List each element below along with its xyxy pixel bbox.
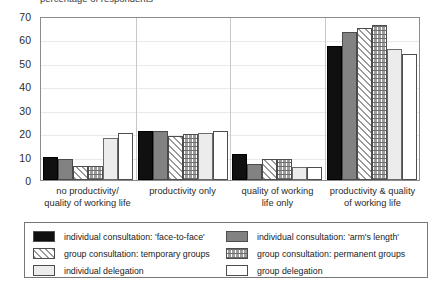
- legend-item: individual consultation: 'arm's length': [226, 231, 419, 242]
- legend-swatch-icon: [33, 265, 55, 276]
- bar: [357, 28, 372, 180]
- bar: [183, 134, 198, 180]
- bar: [342, 32, 357, 180]
- x-axis-label: productivity & quality of working life: [325, 186, 420, 209]
- group-separator: [230, 18, 231, 180]
- y-tick-label: 30: [19, 105, 31, 117]
- x-axis-label: no productivity/ quality of working life: [40, 186, 135, 209]
- legend-item: group consultation: temporary groups: [33, 248, 226, 259]
- group-separator: [325, 18, 326, 180]
- bar: [43, 157, 58, 180]
- bar: [118, 133, 133, 180]
- bar-group: [230, 18, 325, 180]
- x-axis-label: productivity only: [135, 186, 230, 209]
- x-axis-label: quality of working life only: [230, 186, 325, 209]
- bar-groups: [41, 18, 419, 180]
- bar: [168, 136, 183, 181]
- y-axis: 70 60 50 40 30 20 10 0: [0, 17, 36, 181]
- bar: [402, 54, 417, 181]
- bar: [153, 131, 168, 180]
- legend-swatch-icon: [33, 248, 55, 259]
- bar: [372, 25, 387, 180]
- legend-item: group delegation: [226, 265, 419, 276]
- legend-label: group consultation: temporary groups: [64, 249, 210, 259]
- bar: [58, 159, 73, 180]
- legend-item: individual consultation: 'face-to-face': [33, 231, 226, 242]
- legend-item: group consultation: permanent groups: [226, 248, 419, 259]
- bar: [232, 154, 247, 180]
- chart-figure: percentage of respondents 70 60 50 40 30…: [0, 0, 448, 285]
- bar: [292, 167, 307, 180]
- y-tick-label: 10: [19, 152, 31, 164]
- legend-swatch-icon: [226, 248, 248, 259]
- bar-group: [41, 18, 136, 180]
- legend-swatch-icon: [226, 231, 248, 242]
- bar: [138, 131, 153, 180]
- chart-legend: individual consultation: 'face-to-face' …: [24, 222, 428, 278]
- legend-label: group delegation: [257, 266, 323, 276]
- chart-title-clipped: percentage of respondents: [40, 0, 420, 5]
- bar: [307, 167, 322, 180]
- legend-row: group consultation: temporary groups gro…: [33, 245, 419, 262]
- bar: [247, 164, 262, 180]
- group-separator: [136, 18, 137, 180]
- bar: [387, 49, 402, 180]
- bar: [73, 166, 88, 180]
- bar-group: [136, 18, 231, 180]
- bar-group: [325, 18, 420, 180]
- y-tick-label: 40: [19, 81, 31, 93]
- legend-label: group consultation: permanent groups: [257, 249, 405, 259]
- bar: [88, 166, 103, 180]
- legend-label: individual delegation: [64, 266, 144, 276]
- y-tick-label: 60: [19, 34, 31, 46]
- legend-swatch-icon: [226, 265, 248, 276]
- y-tick-label: 50: [19, 58, 31, 70]
- legend-swatch-icon: [33, 231, 55, 242]
- y-tick-label: 0: [25, 175, 31, 187]
- legend-label: individual consultation: 'arm's length': [257, 232, 399, 242]
- bar: [213, 131, 228, 180]
- bar: [198, 133, 213, 180]
- bar: [103, 138, 118, 180]
- legend-label: individual consultation: 'face-to-face': [64, 232, 205, 242]
- legend-item: individual delegation: [33, 265, 226, 276]
- chart-title: percentage of respondents: [40, 0, 420, 5]
- legend-row: individual delegation group delegation: [33, 262, 419, 279]
- bar: [277, 159, 292, 180]
- bar: [262, 159, 277, 180]
- x-axis-labels: no productivity/ quality of working life…: [40, 186, 420, 209]
- bar: [327, 46, 342, 180]
- y-tick-label: 70: [19, 11, 31, 23]
- y-tick-label: 20: [19, 128, 31, 140]
- plot-area: [40, 17, 420, 181]
- legend-row: individual consultation: 'face-to-face' …: [33, 228, 419, 245]
